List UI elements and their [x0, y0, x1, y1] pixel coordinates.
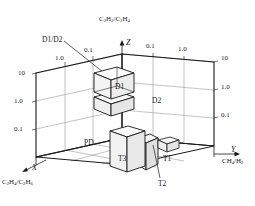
- region-label-t3: T3: [118, 155, 126, 163]
- z-axis-ratio-label: C2H2/C2H4: [99, 16, 130, 24]
- tick-top-left-1: 1.0: [55, 55, 64, 62]
- region-cuboid-d1[interactable]: [94, 67, 134, 99]
- tick-left-vertical-2: 0.1: [14, 126, 23, 133]
- y-axis-ratio-label: CH4/H2: [222, 158, 243, 166]
- region-label-d1: D1: [115, 83, 124, 91]
- tick-top-left-0: 0.1: [84, 47, 93, 54]
- z-axis-name: Z: [126, 39, 130, 47]
- region-cuboid-t3[interactable]: [110, 126, 145, 172]
- tick-left-vertical-1: 1.0: [14, 98, 23, 105]
- tick-right-vertical-0: 10: [221, 55, 228, 62]
- y-axis-name: Y: [231, 146, 235, 154]
- region-cuboid-t1[interactable]: [158, 137, 179, 152]
- region-label-pd: PD: [84, 139, 94, 147]
- tick-right-vertical-2: 0.1: [221, 112, 230, 119]
- region-label-t2: T2: [158, 180, 166, 188]
- dga-3d-diagram: [0, 0, 255, 206]
- x-axis-ratio-label: C2H4/C2H6: [2, 179, 33, 187]
- tick-right-vertical-1: 1.0: [221, 84, 230, 91]
- region-label-t1: T1: [163, 155, 171, 163]
- region-label-d2: D2: [152, 97, 161, 105]
- tick-top-right-0: 0.1: [146, 43, 155, 50]
- callout-label-d1d2: D1/D2: [42, 36, 62, 44]
- tick-top-right-1: 1.0: [178, 46, 187, 53]
- tick-left-vertical-0: 10: [18, 70, 25, 77]
- x-axis-name: X: [32, 164, 37, 172]
